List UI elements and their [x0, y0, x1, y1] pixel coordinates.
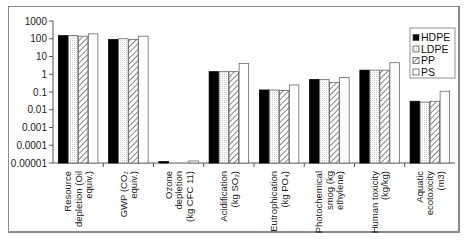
x-axis-category-labels: Resourcedepletion (Oilequiv.)GWP (CO₂equ… [62, 171, 446, 234]
bar-pp [330, 82, 340, 163]
bar-pp [380, 70, 390, 163]
y-tick-label: 10 [36, 51, 48, 62]
bar-ldpe [269, 90, 279, 163]
x-category-label: Acidification(kg SO₂) [218, 171, 240, 222]
x-category-label: Human toxicity(kg/kg) [369, 171, 391, 234]
legend: HDPELDPEPPPS [410, 28, 455, 78]
y-tick-label: 0.001 [22, 122, 47, 133]
x-category-label-line: Photochemical [313, 171, 324, 233]
x-category-label-line: depletion (Oil [73, 171, 84, 227]
bar-ldpe [119, 39, 129, 163]
legend-swatch-ldpe [413, 46, 419, 52]
bar-ps [139, 36, 149, 163]
x-category-label: Aquaticecotoxicity(m3) [414, 171, 446, 216]
x-category-label-line: Eutrophication [268, 171, 279, 232]
legend-swatch-hdpe [413, 35, 419, 41]
x-category-label-line: ethylene) [334, 171, 345, 210]
y-tick-label: 0.00001 [11, 158, 48, 169]
bar-hdpe [159, 162, 169, 163]
x-category-label-line: Human toxicity [369, 171, 380, 234]
x-category-label-line: Ozone [163, 171, 174, 199]
x-category-label-line: (kg CFC 11) [184, 171, 195, 222]
bar-ps [440, 91, 450, 163]
y-tick-label: 1 [41, 69, 47, 80]
x-category-label: Photochemicalsmog (kgethylene) [313, 171, 345, 233]
x-category-label-line: Acidification [218, 171, 229, 222]
y-tick-label: 100 [30, 33, 47, 44]
x-category-label: Ozonedepletion(kg CFC 11) [163, 171, 195, 222]
x-category-label-line: GWP (CO₂ [118, 171, 129, 218]
x-category-label: Eutrophication(kg PO₄) [268, 171, 290, 232]
bar-hdpe [109, 40, 119, 163]
x-category-label: GWP (CO₂equiv.) [118, 171, 140, 218]
x-category-label-line: depletion [173, 171, 184, 210]
bar-ps [289, 85, 299, 163]
y-tick-label: 0.0001 [16, 140, 47, 151]
bar-ps [340, 78, 350, 163]
bar-hdpe [259, 90, 269, 163]
bar-ps [390, 63, 400, 163]
x-category-label: Resourcedepletion (Oilequiv.) [62, 171, 94, 227]
y-tick-label: 0.1 [33, 87, 47, 98]
bar-ps [88, 34, 98, 163]
x-category-label-line: Resource [62, 171, 73, 212]
bar-ldpe [68, 36, 78, 163]
x-category-label-line: (kg/kg) [379, 171, 390, 200]
bar-pp [430, 101, 440, 163]
x-category-label-line: (kg SO₂) [229, 171, 240, 207]
x-category-label-line: smog (kg [324, 171, 335, 210]
bar-ps [189, 161, 199, 163]
bar-pp [129, 40, 139, 163]
bar-hdpe [209, 72, 219, 163]
legend-label-ldpe: LDPE [421, 43, 448, 55]
bar-pp [229, 72, 239, 163]
bar-pp [279, 91, 289, 163]
legend-label-hdpe: HDPE [421, 31, 450, 43]
x-category-label-line: Aquatic [414, 171, 425, 203]
legend-swatch-ps [413, 69, 419, 75]
bar-hdpe [360, 70, 370, 163]
bars [58, 34, 449, 163]
legend-label-pp: PP [421, 54, 435, 66]
bar-hdpe [58, 36, 68, 163]
y-axis-tick-labels: 10001001010.10.010.0010.00010.00001 [11, 16, 48, 169]
bar-ps [239, 64, 249, 163]
bar-ldpe [370, 70, 380, 163]
legend-swatch-pp [413, 58, 419, 64]
bar-ldpe [320, 80, 330, 163]
y-tick-label: 1000 [25, 16, 48, 27]
bar-hdpe [410, 101, 420, 163]
x-category-label-line: (m3) [435, 171, 446, 191]
x-category-label-line: ecotoxicity [424, 171, 435, 216]
bar-pp [78, 36, 88, 163]
bar-ldpe [219, 72, 229, 163]
bar-chart: 10001001010.10.010.0010.00010.00001 Reso… [0, 0, 465, 246]
y-tick-label: 0.01 [28, 104, 48, 115]
legend-label-ps: PS [421, 66, 435, 78]
x-category-label-line: equiv.) [83, 171, 94, 199]
bar-ldpe [420, 102, 430, 163]
x-category-label-line: equiv.) [128, 171, 139, 199]
x-category-label-line: (kg PO₄) [279, 171, 290, 208]
bar-hdpe [310, 80, 320, 163]
